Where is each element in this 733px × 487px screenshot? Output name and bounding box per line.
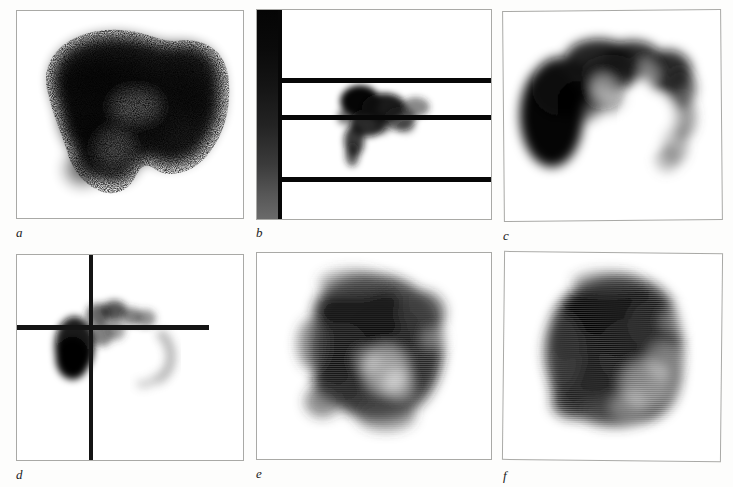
panel-label-a: a (16, 226, 23, 239)
crosshair-horizontal-line (17, 325, 209, 330)
panel-c-image (503, 10, 722, 221)
panel-d (16, 254, 244, 461)
panel-b (256, 9, 492, 220)
panel-f (502, 251, 723, 462)
panel-a (16, 10, 244, 219)
panel-f-image (503, 252, 722, 461)
marker-line-3 (278, 177, 491, 182)
grayscale-calibration-bar (257, 10, 278, 219)
panel-label-e: e (256, 467, 262, 480)
panel-e (256, 252, 492, 460)
panel-c (502, 9, 723, 222)
panel-label-c: c (503, 229, 509, 242)
figure-plate: a (0, 0, 733, 487)
panel-label-f: f (503, 469, 507, 482)
panel-label-d: d (16, 468, 23, 481)
panel-a-image (17, 11, 243, 218)
panel-e-image (257, 253, 491, 459)
panel-d-image (17, 255, 243, 460)
crosshair-vertical-line (89, 255, 93, 460)
marker-line-1 (278, 78, 491, 83)
marker-line-2 (278, 115, 491, 120)
panel-label-b: b (256, 226, 263, 239)
